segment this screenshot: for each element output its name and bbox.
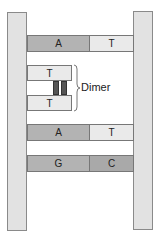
base-a-row3: A [27, 124, 90, 141]
dimer-bond-1 [53, 81, 59, 95]
dimer-label: Dimer [81, 81, 110, 93]
left-backbone [7, 12, 27, 231]
base-label: T [46, 98, 52, 109]
dimer-bottom-thymine: T [27, 95, 72, 111]
base-t-row1: T [89, 35, 134, 52]
base-a-row1: A [27, 35, 90, 52]
base-label: T [46, 68, 52, 79]
base-label: A [55, 127, 62, 138]
base-t-row3: T [89, 124, 134, 141]
base-label: T [108, 38, 114, 49]
base-label: G [55, 158, 63, 169]
dimer-bond-2 [61, 81, 67, 95]
base-label: C [108, 158, 115, 169]
base-label: A [55, 38, 62, 49]
dimer-top-thymine: T [27, 65, 72, 81]
right-backbone [133, 11, 153, 230]
base-c-row4: C [89, 155, 134, 172]
base-label: T [108, 127, 114, 138]
base-g-row4: G [27, 155, 90, 172]
